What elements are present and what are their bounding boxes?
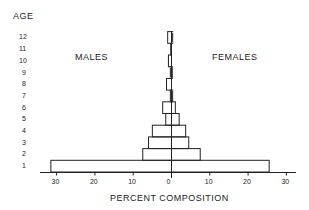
- y-axis-title: AGE: [13, 11, 34, 21]
- male-bar-age-4: [152, 125, 171, 137]
- age-tick-label: 6: [22, 104, 26, 111]
- male-bar-age-8: [167, 78, 172, 90]
- population-pyramid-chart: AGE MALES FEMALES PERCENT COMPOSITION 12…: [0, 0, 309, 210]
- male-bar-age-3: [149, 137, 172, 149]
- x-tick-label: 20: [243, 178, 251, 185]
- female-bar-age-5: [172, 114, 180, 126]
- age-tick-label: 4: [22, 127, 26, 134]
- x-tick-label: 30: [281, 178, 289, 185]
- females-label: FEMALES: [212, 52, 258, 62]
- male-bar-age-12: [168, 32, 172, 44]
- males-label: MALES: [75, 52, 108, 62]
- age-tick-label: 8: [22, 80, 26, 87]
- age-tick-label: 9: [22, 69, 26, 76]
- male-bar-age-6: [163, 102, 172, 114]
- age-tick-label: 5: [22, 115, 26, 122]
- x-tick-label: 10: [205, 178, 213, 185]
- x-tick-label: 20: [90, 178, 98, 185]
- x-axis-title: PERCENT COMPOSITION: [110, 193, 229, 203]
- female-bar-age-2: [172, 149, 201, 161]
- age-tick-label: 2: [22, 150, 26, 157]
- age-tick-label: 3: [22, 139, 26, 146]
- age-tick-label: 7: [22, 92, 26, 99]
- female-bar-age-4: [172, 125, 186, 137]
- x-tick-label: 30: [52, 178, 60, 185]
- age-tick-label: 1: [22, 162, 26, 169]
- male-bar-age-2: [143, 149, 172, 161]
- age-tick-label: 12: [19, 33, 27, 40]
- x-tick-label: 0: [167, 178, 171, 185]
- female-bar-age-1: [172, 160, 270, 172]
- male-bar-age-1: [51, 160, 172, 172]
- female-bar-age-6: [172, 102, 176, 114]
- age-tick-label: 10: [19, 57, 27, 64]
- female-bar-age-3: [172, 137, 189, 149]
- x-tick-label: 10: [128, 178, 136, 185]
- male-bar-age-5: [166, 114, 172, 126]
- age-tick-label: 11: [19, 45, 26, 52]
- chart-plot-area: [0, 0, 309, 210]
